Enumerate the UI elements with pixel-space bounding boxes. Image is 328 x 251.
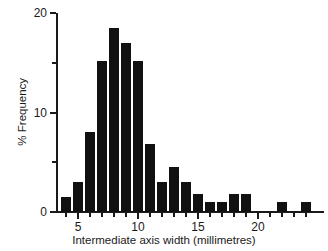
x-axis-minor-tick	[245, 213, 247, 217]
x-axis-tick-label: 5	[63, 221, 93, 233]
y-axis-line	[56, 13, 58, 213]
x-axis-tick-label: 20	[243, 221, 273, 233]
x-axis-minor-tick	[293, 213, 295, 217]
histogram-bar	[109, 28, 119, 212]
x-axis-minor-tick	[161, 213, 163, 217]
x-axis-minor-tick	[173, 213, 175, 217]
histogram-bar	[157, 182, 167, 212]
x-axis-tick	[77, 213, 79, 219]
x-axis-minor-tick	[221, 213, 223, 217]
y-axis-tick	[50, 211, 56, 213]
x-axis-minor-tick	[233, 213, 235, 217]
x-axis-minor-tick	[185, 213, 187, 217]
histogram-bar	[97, 61, 107, 212]
histogram-bar	[277, 202, 287, 212]
x-axis-minor-tick	[269, 213, 271, 217]
y-axis-tick-label: 20	[34, 7, 47, 19]
y-axis-minor-tick	[52, 62, 56, 64]
x-axis-tick	[197, 213, 199, 219]
x-axis-title: Intermediate axis width (millimetres)	[0, 235, 328, 247]
x-axis-minor-tick	[305, 213, 307, 217]
x-axis-tick-label: 10	[123, 221, 153, 233]
histogram-bar	[145, 144, 155, 212]
plot-area: 510152001020 Intermediate axis width (mi…	[0, 0, 328, 251]
x-axis-minor-tick	[281, 213, 283, 217]
x-axis-minor-tick	[65, 213, 67, 217]
x-axis-tick	[137, 213, 139, 219]
x-axis-minor-tick	[209, 213, 211, 217]
y-axis-tick	[50, 12, 56, 14]
histogram-bar	[181, 182, 191, 212]
x-axis-minor-tick	[101, 213, 103, 217]
y-axis-title: % Frequency	[17, 42, 29, 182]
histogram-figure: 510152001020 Intermediate axis width (mi…	[0, 0, 328, 251]
y-axis-tick-label: 10	[34, 107, 47, 119]
x-axis-tick	[257, 213, 259, 219]
y-axis-tick	[50, 112, 56, 114]
x-axis-minor-tick	[89, 213, 91, 217]
histogram-bar	[241, 194, 251, 212]
x-axis-minor-tick	[125, 213, 127, 217]
histogram-bar	[205, 202, 215, 212]
x-axis-tick-label: 15	[183, 221, 213, 233]
histogram-bar	[133, 61, 143, 212]
histogram-bar	[301, 202, 311, 212]
y-axis-tick-label: 0	[40, 206, 47, 218]
histogram-bar	[61, 197, 71, 212]
histogram-bar	[85, 132, 95, 212]
y-axis-minor-tick	[52, 161, 56, 163]
histogram-bar	[121, 43, 131, 212]
histogram-bar	[169, 167, 179, 212]
histogram-bar	[229, 194, 239, 212]
x-axis-minor-tick	[149, 213, 151, 217]
x-axis-minor-tick	[113, 213, 115, 217]
histogram-bar	[73, 182, 83, 212]
histogram-bar	[193, 194, 203, 212]
histogram-bar	[217, 202, 227, 212]
